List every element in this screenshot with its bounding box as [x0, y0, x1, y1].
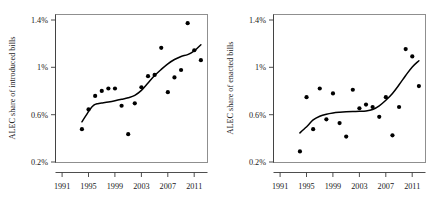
data-point — [106, 86, 110, 90]
y-tick-label-right-1: 0.6% — [249, 111, 266, 120]
data-point — [318, 86, 322, 90]
y-tick-marks-right — [269, 20, 274, 162]
x-tick-label-left-0: 1991 — [54, 182, 70, 191]
x-tick-label-left-5: 2011 — [186, 182, 202, 191]
chart-svg-right: 1.4% 1% 0.6% 0.2% 1991 1995 1999 2003 20… — [218, 0, 441, 216]
data-point — [186, 21, 190, 25]
data-point — [390, 133, 394, 137]
data-point — [113, 86, 117, 90]
y-axis-title-left: ALEC share of introduced bills — [8, 37, 17, 140]
data-point — [146, 74, 150, 78]
scatter-points-left — [80, 21, 203, 136]
data-point — [93, 94, 97, 98]
y-tick-label-right-2: 1% — [255, 63, 266, 72]
data-point — [139, 85, 143, 89]
data-point — [357, 106, 361, 110]
x-tick-label-right-2: 1999 — [325, 182, 341, 191]
smooth-curve-right — [300, 61, 419, 133]
data-point — [311, 127, 315, 131]
data-point — [80, 127, 84, 131]
y-tick-label-left-3: 1.4% — [31, 16, 48, 25]
y-tick-label-left-1: 0.6% — [31, 111, 48, 120]
data-point — [371, 105, 375, 109]
plot-frame-right — [274, 15, 426, 163]
data-point — [344, 135, 348, 139]
chart-panel-introduced-bills: 1.4% 1% 0.6% 0.2% 1991 1995 1999 2003 20… — [0, 0, 216, 216]
y-tick-label-right-0: 0.2% — [249, 158, 266, 167]
data-point — [351, 88, 355, 92]
chart-svg-left: 1.4% 1% 0.6% 0.2% 1991 1995 1999 2003 20… — [0, 0, 216, 216]
x-tick-label-right-4: 2007 — [378, 182, 394, 191]
plot-frame-left — [56, 15, 208, 163]
x-tick-label-left-2: 1999 — [107, 182, 123, 191]
data-point — [100, 89, 104, 93]
data-point — [410, 54, 414, 58]
data-point — [172, 75, 176, 79]
data-point — [179, 68, 183, 72]
data-point — [166, 90, 170, 94]
chart-panel-enacted-bills: 1.4% 1% 0.6% 0.2% 1991 1995 1999 2003 20… — [218, 0, 441, 216]
data-point — [126, 132, 130, 136]
x-tick-label-right-3: 2003 — [351, 182, 367, 191]
data-point — [159, 46, 163, 50]
data-point — [192, 48, 196, 52]
data-point — [304, 95, 308, 99]
x-tick-marks-left — [62, 173, 194, 178]
data-point — [404, 47, 408, 51]
data-point — [153, 73, 157, 77]
y-tick-label-left-0: 0.2% — [31, 158, 48, 167]
data-point — [384, 95, 388, 99]
data-point — [298, 149, 302, 153]
data-point — [331, 91, 335, 95]
figure-root: 1.4% 1% 0.6% 0.2% 1991 1995 1999 2003 20… — [0, 0, 441, 216]
data-point — [199, 58, 203, 62]
data-point — [417, 84, 421, 88]
x-tick-label-left-3: 2003 — [133, 182, 149, 191]
x-tick-label-left-1: 1995 — [80, 182, 96, 191]
y-tick-marks-left — [51, 20, 56, 162]
x-tick-label-right-5: 2011 — [404, 182, 420, 191]
data-point — [337, 121, 341, 125]
x-tick-label-right-0: 1991 — [272, 182, 288, 191]
y-tick-label-left-2: 1% — [37, 63, 48, 72]
data-point — [324, 117, 328, 121]
x-tick-marks-right — [280, 173, 412, 178]
x-tick-label-right-1: 1995 — [298, 182, 314, 191]
data-point — [364, 102, 368, 106]
data-point — [119, 104, 123, 108]
y-tick-label-right-3: 1.4% — [249, 16, 266, 25]
x-tick-label-left-4: 2007 — [160, 182, 176, 191]
data-point — [377, 115, 381, 119]
data-point — [86, 107, 90, 111]
smooth-curve-left — [82, 45, 201, 122]
data-point — [133, 101, 137, 105]
scatter-points-right — [298, 47, 421, 154]
y-axis-title-right: ALEC share of enacted bills — [226, 42, 235, 135]
data-point — [397, 105, 401, 109]
